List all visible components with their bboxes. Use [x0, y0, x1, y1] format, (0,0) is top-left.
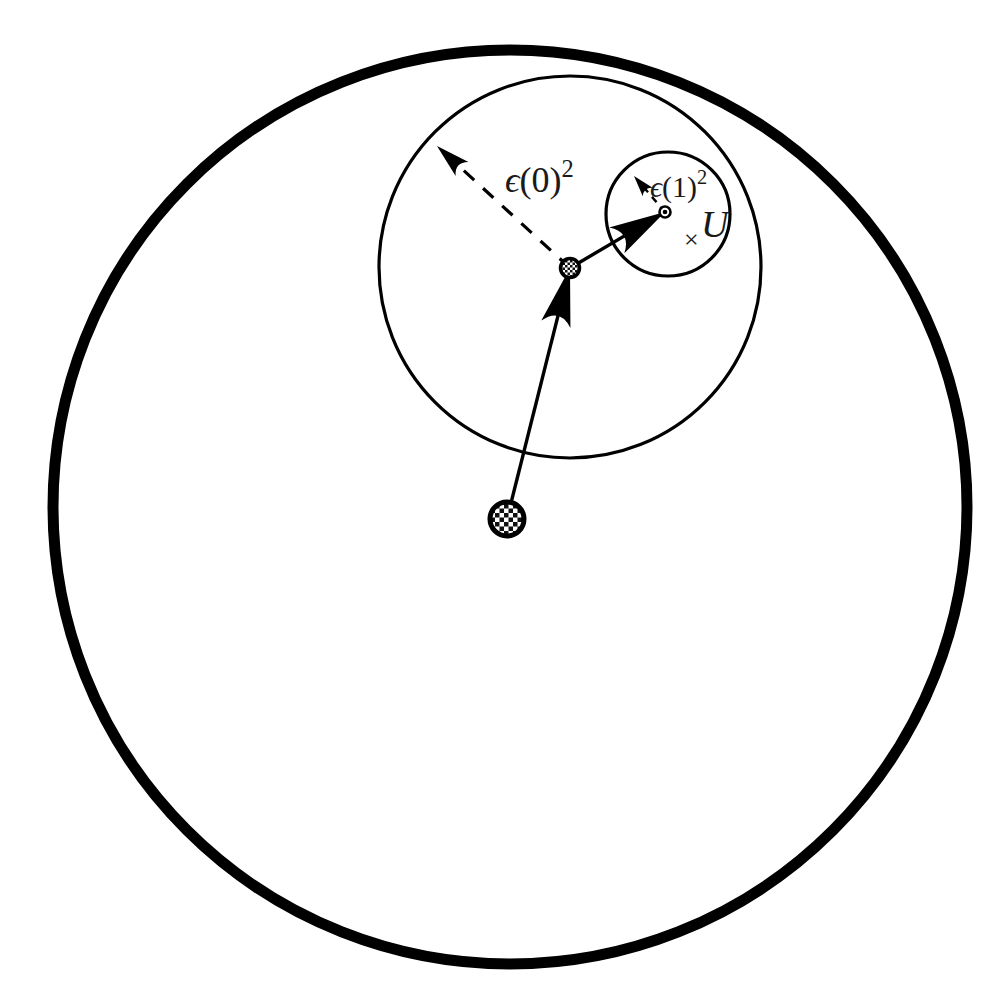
intermediate-point-node-body	[561, 259, 580, 278]
step-1-arrow	[570, 212, 665, 268]
start-point-node-body	[490, 502, 524, 536]
intermediate-point-node	[561, 259, 580, 278]
figure-canvas: ϵ(0)2 ϵ(1)2 U ×	[0, 0, 1006, 1007]
epsilon-1-label: ϵ(1)2	[650, 166, 707, 204]
diagram-svg: ϵ(0)2 ϵ(1)2 U ×	[0, 0, 1006, 1007]
target-set-label-U: U	[701, 203, 731, 245]
step-0-arrow	[507, 268, 570, 519]
svg-text:ϵ(1)2: ϵ(1)2	[650, 166, 707, 204]
step-0-arrow-shaft	[507, 299, 562, 519]
svg-text:ϵ(0)2: ϵ(0)2	[505, 155, 574, 200]
destination-point-node-dot	[663, 210, 668, 215]
step-1-arrow-head	[609, 212, 665, 253]
destination-point-node	[660, 207, 671, 218]
start-point-node	[490, 502, 524, 536]
epsilon-0-label: ϵ(0)2	[505, 155, 574, 200]
target-point-cross-mark: ×	[684, 225, 699, 254]
